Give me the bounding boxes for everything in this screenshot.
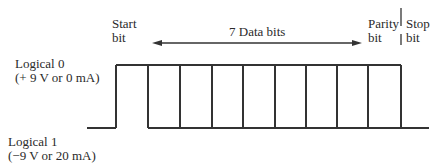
- start-bit-label-line1: Start: [112, 17, 137, 31]
- data-bits-label: 7 Data bits: [229, 25, 285, 39]
- start-bit-label: Start bit: [112, 17, 137, 45]
- logical-1-label-line2: (−9 V or 20 mA): [8, 149, 96, 163]
- start-bit-label-line2: bit: [112, 31, 137, 45]
- logical-1-label: Logical 1 (−9 V or 20 mA): [8, 135, 96, 163]
- parity-bit-label: Parity bit: [368, 17, 399, 45]
- logical-0-label-line2: (+ 9 V or 0 mA): [15, 71, 100, 85]
- data-bits-arrow: [152, 40, 362, 46]
- stop-bit-label-line2: bit: [406, 31, 430, 45]
- bit-boundaries: [148, 65, 401, 128]
- parity-bit-label-line1: Parity: [368, 17, 399, 31]
- arrow-left-head: [152, 40, 162, 46]
- logical-0-label: Logical 0 (+ 9 V or 0 mA): [15, 57, 100, 85]
- stop-bit-label: Stop bit: [406, 17, 430, 45]
- stop-bit-label-line1: Stop: [406, 17, 430, 31]
- logical-1-label-line1: Logical 1: [8, 135, 96, 149]
- parity-bit-label-line2: bit: [368, 31, 399, 45]
- logical-0-label-line1: Logical 0: [15, 57, 100, 71]
- arrow-right-head: [352, 40, 362, 46]
